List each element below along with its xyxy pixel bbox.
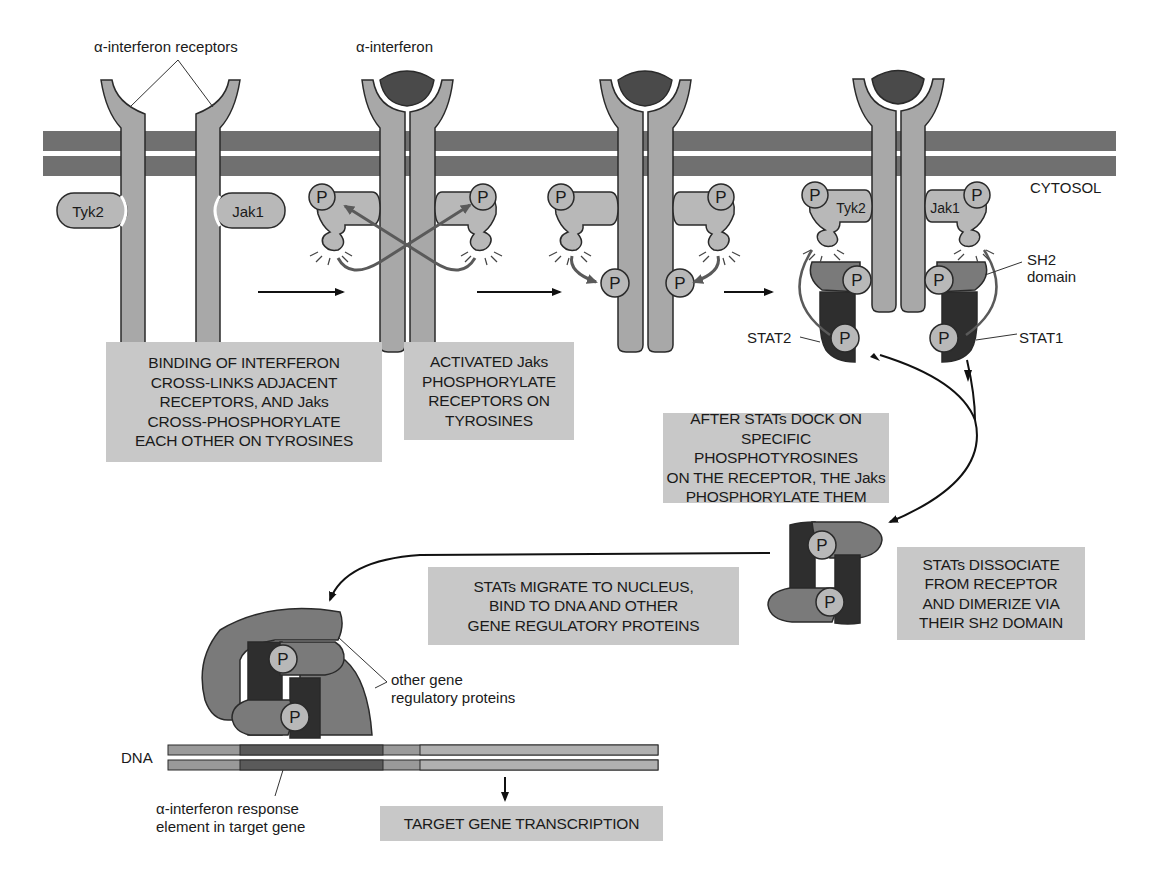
response-element-label-2: element in target gene [156,818,305,836]
nuclear-complex [202,609,372,738]
other-proteins-label-1: other gene [391,671,463,689]
phospho-label: P [609,274,620,293]
other-proteins-label-2: regulatory proteins [391,689,515,707]
phospho-label: P [316,188,327,207]
step-box-4: STATs DISSOCIATEFROM RECEPTORAND DIMERIZ… [897,547,1085,640]
dissociate-arrow [880,355,977,522]
phospho-label: P [674,274,685,293]
step-box-6: TARGET GENE TRANSCRIPTION [380,806,663,841]
phospho-label: P [824,593,835,612]
stat1-label: STAT1 [1019,329,1063,347]
phospho-label: P [938,329,949,348]
cytosol-label: CYTOSOL [1030,179,1101,197]
step-box-3: AFTER STATs DOCK ONSPECIFIC PHOSPHOTYROS… [663,413,889,503]
dna-label: DNA [121,749,153,767]
step-box-2: ACTIVATED JaksPHOSPHORYLATERECEPTORS ONT… [404,342,574,440]
tyk2-label: Tyk2 [72,203,104,220]
phospho-label: P [816,536,827,555]
jak1-label: Jak1 [930,200,960,216]
sh2-label-1: SH2 [1027,251,1056,269]
response-element-label-1: α-interferon response [156,800,299,818]
phospho-label: P [971,186,982,205]
dna-double-strand [168,745,658,770]
phospho-label: P [477,188,488,207]
phospho-label: P [851,271,862,290]
phospho-label: P [277,650,288,669]
sh2-label-2: domain [1027,268,1076,286]
phospho-label: P [555,188,566,207]
step-box-5: STATs MIGRATE TO NUCLEUS,BIND TO DNA AND… [428,567,739,645]
receptors-label: α-interferon receptors [94,38,238,56]
phospho-label: P [289,708,300,727]
tyk2-label: Tyk2 [836,200,866,216]
step-box-1: BINDING OF INTERFERONCROSS-LINKS ADJACEN… [106,342,382,462]
phospho-label: P [933,271,944,290]
phospho-label: P [715,188,726,207]
phospho-label: P [839,329,850,348]
stat2-label: STAT2 [747,329,791,347]
phospho-label: P [809,186,820,205]
jak1-label: Jak1 [232,203,264,220]
interferon-label: α-interferon [356,38,433,56]
